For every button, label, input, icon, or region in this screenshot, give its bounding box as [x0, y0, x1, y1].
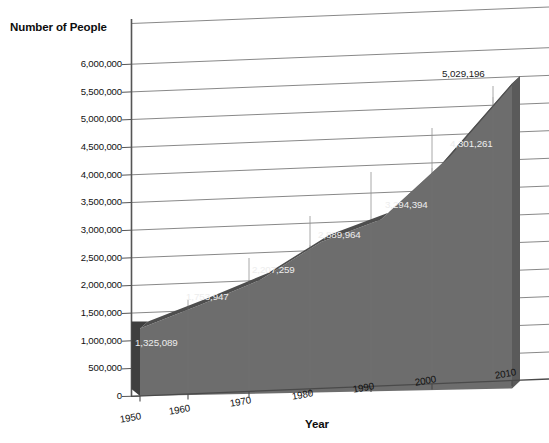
y-tick-label: 0 [117, 390, 122, 401]
y-tick-label: 4,000,000 [81, 169, 122, 180]
y-tick-label: 5,000,000 [81, 113, 122, 124]
y-tick-label: 1,000,000 [81, 335, 122, 346]
y-tick-label: 1,500,000 [81, 307, 122, 318]
y-tick-label: 3,000,000 [81, 224, 122, 235]
area-chart: Number of People Year 6,000,000 5,500,00… [0, 0, 549, 443]
y-tick-label: 2,500,000 [81, 252, 122, 263]
y-tick-label: 500,000 [88, 362, 122, 373]
y-tick-label: 4,500,000 [81, 141, 122, 152]
y-axis-title: Number of People [10, 21, 107, 33]
y-tick-label: 6,000,000 [81, 58, 122, 69]
area-right-face [512, 76, 520, 389]
data-label-1970: 2,207,259 [252, 264, 295, 275]
data-label-2010: 5,029,196 [442, 68, 485, 79]
y-tick-label: 5,500,000 [81, 86, 122, 97]
y-tick-label: 3,500,000 [81, 196, 122, 207]
y-tick-label: 2,000,000 [81, 279, 122, 290]
data-label-1980: 2,889,964 [318, 229, 361, 240]
data-label-2000: 4,301,261 [450, 138, 493, 149]
data-label-1960: 1,753,947 [186, 291, 229, 302]
data-label-1950: 1,325,089 [135, 337, 178, 348]
data-label-1990: 3,294,394 [385, 199, 428, 210]
x-axis-title: Year [305, 418, 329, 430]
